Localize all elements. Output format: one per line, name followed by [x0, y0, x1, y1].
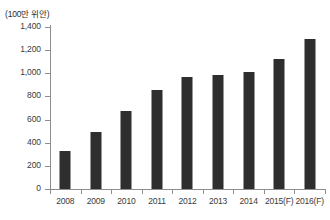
bar[interactable]: [90, 132, 101, 189]
y-tick-label: 400: [27, 137, 41, 147]
x-axis-label: 2008: [50, 196, 81, 206]
x-tick-mark: [294, 189, 295, 194]
bar[interactable]: [182, 77, 193, 189]
x-axis-label: 2010: [111, 196, 142, 206]
x-axis-label: 2011: [142, 196, 173, 206]
x-tick-mark: [81, 189, 82, 194]
x-axis-label: 2016(F): [294, 196, 325, 206]
x-tick-mark: [203, 189, 204, 194]
y-tick-label: 0: [36, 183, 41, 193]
bar[interactable]: [304, 39, 315, 189]
bar[interactable]: [213, 75, 224, 189]
y-tick-label: 1,400: [20, 21, 41, 31]
x-tick-mark: [325, 189, 326, 194]
y-axis-unit-caption: (100만 위안): [5, 7, 49, 19]
x-axis-line: [50, 189, 325, 190]
bar[interactable]: [243, 72, 254, 189]
bar-slot: [233, 27, 264, 189]
bar[interactable]: [274, 59, 285, 189]
bar-slot: [203, 27, 234, 189]
x-axis-label: 2015(F): [264, 196, 295, 206]
y-tick-label: 1,200: [20, 44, 41, 54]
x-tick-mark: [142, 189, 143, 194]
bar-chart: (100만 위안) 02004006008001,0001,2001,400 2…: [0, 0, 330, 220]
x-tick-mark: [50, 189, 51, 194]
x-tick-mark: [111, 189, 112, 194]
y-tick-label: 600: [27, 114, 41, 124]
x-axis-label: 2012: [172, 196, 203, 206]
x-axis-label: 2013: [203, 196, 234, 206]
bar-slot: [264, 27, 295, 189]
bar-slot: [294, 27, 325, 189]
y-tick-label: 200: [27, 160, 41, 170]
x-axis-label: 2014: [233, 196, 264, 206]
bar[interactable]: [151, 90, 162, 190]
x-tick-mark: [233, 189, 234, 194]
bar-slot: [142, 27, 173, 189]
bars-group: [50, 27, 325, 189]
bar-slot: [172, 27, 203, 189]
bar-slot: [111, 27, 142, 189]
bar-slot: [81, 27, 112, 189]
x-axis-labels: 20082009201020112012201320142015(F)2016(…: [50, 196, 325, 212]
y-tick-label: 1,000: [20, 67, 41, 77]
bar[interactable]: [121, 111, 132, 189]
x-tick-mark: [172, 189, 173, 194]
bar[interactable]: [60, 151, 71, 189]
x-tick-mark: [264, 189, 265, 194]
bar-slot: [50, 27, 81, 189]
y-tick-label: 800: [27, 90, 41, 100]
x-axis-label: 2009: [81, 196, 112, 206]
